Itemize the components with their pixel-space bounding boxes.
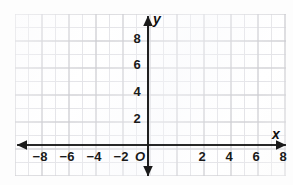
y-tick-label-4: 4 (133, 85, 140, 98)
x-tick-label--8: −8 (33, 150, 48, 163)
y-tick-label-8: 8 (133, 32, 140, 45)
y-axis-name-label: y (153, 12, 161, 26)
x-tick-label--6: −6 (60, 150, 75, 163)
x-axis-name-label: x (272, 127, 280, 141)
x-tick-label--4: −4 (87, 150, 102, 163)
x-tick-label-2: 2 (198, 150, 205, 163)
coordinate-plane-figure: −8 −6 −4 −2 2 4 6 8 O 2 4 6 8 x y (0, 0, 293, 185)
x-tick-label-8: 8 (279, 150, 286, 163)
y-tick-label-2: 2 (133, 112, 140, 125)
x-tick-label-4: 4 (225, 150, 232, 163)
origin-label: O (135, 150, 145, 163)
y-tick-label-6: 6 (133, 58, 140, 71)
x-tick-label-6: 6 (252, 150, 259, 163)
x-tick-label--2: −2 (114, 150, 129, 163)
